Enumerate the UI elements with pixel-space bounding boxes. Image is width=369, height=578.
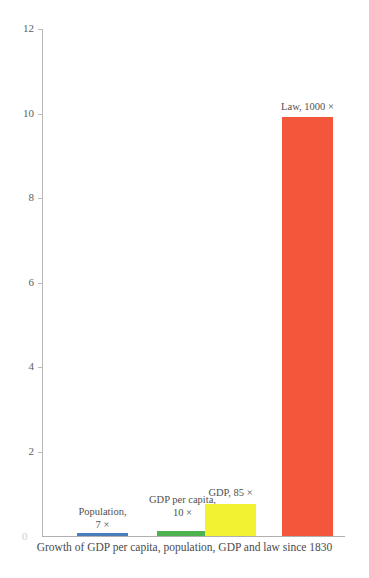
y-axis-tick-label-6: 6 (0, 277, 34, 288)
bar-chart: 12 10 8 6 4 2 0 Population, 7 × GDP per … (0, 0, 369, 578)
bar-gdp[interactable] (205, 504, 256, 536)
y-axis-tick-label-4: 4 (0, 361, 34, 372)
y-axis-tick-label-12: 12 (0, 23, 34, 34)
chart-caption: Growth of GDP per capita, population, GD… (0, 540, 369, 555)
bar-gdp-per-capita[interactable] (157, 531, 208, 536)
bar-population[interactable] (77, 533, 128, 536)
bar-label-gdp: GDP, 85 × (180, 487, 281, 500)
y-axis-tick-label-8: 8 (0, 192, 34, 203)
x-axis-line (42, 536, 345, 537)
y-axis-tick-label-2: 2 (0, 446, 34, 457)
bar-law[interactable] (282, 117, 333, 536)
bar-label-law: Law, 1000 × (257, 101, 358, 114)
y-axis-tick-label-10: 10 (0, 108, 34, 119)
plot-area: Population, 7 × GDP per capita, 10 × GDP… (43, 29, 345, 536)
